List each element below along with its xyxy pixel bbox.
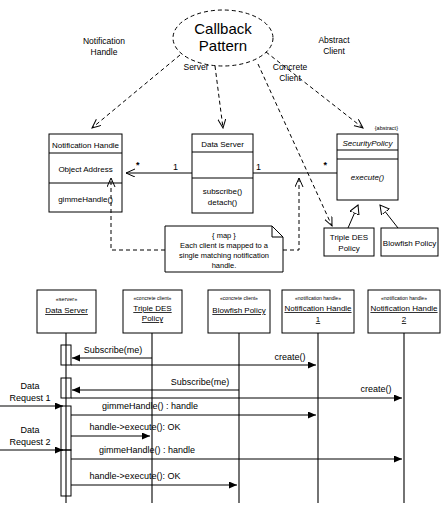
message-label-3: Subscribe(me): [171, 377, 230, 387]
multiplicity-star-right: *: [323, 160, 327, 170]
lifeline-name-notification-handle-1: Notification Handle: [284, 304, 352, 313]
security-policy-name: SecurityPolicy: [342, 139, 393, 148]
message-label-1: Subscribe(me): [84, 345, 143, 355]
lifeline-index-notification-handle-2: 2: [402, 315, 407, 324]
external-actor-2-line1: Data: [20, 425, 39, 435]
external-actor-1-line2: Request 1: [9, 393, 50, 403]
lifeline-name-triple-des-line1: Triple DES: [133, 304, 171, 313]
external-actor-2-line2: Request 2: [9, 437, 50, 447]
note-line-2: single matching notification: [179, 251, 269, 260]
lifeline-stereotype-blowfish: «concrete client»: [220, 295, 258, 301]
pattern-title-line2: Pattern: [199, 37, 247, 54]
lifeline-name-data-server: Data Server: [45, 306, 88, 315]
lifeline-stereotype-data-server: «server»: [56, 296, 77, 302]
triple-des-label-line1: Triple DES: [330, 233, 368, 242]
security-policy-stereotype: {abstract}: [375, 125, 398, 131]
multiplicity-one-right: 1: [256, 162, 261, 172]
role-label-abstract-client-line2: Client: [323, 46, 345, 56]
lifeline-stereotype-notification-handle-1: «notification handle»: [295, 295, 341, 301]
role-label-abstract-client-line1: Abstract: [318, 35, 350, 45]
note-line-3: handle.: [212, 261, 237, 270]
note-line-1: Each client is mapped to a: [180, 241, 269, 250]
notification-handle-attribute: Object Address: [58, 165, 112, 174]
lifeline-name-triple-des-line2: Policy: [142, 314, 163, 323]
role-label-notification-handle-line2: Handle: [91, 47, 118, 57]
data-server-operation-2: detach(): [208, 198, 238, 207]
data-server-name: Data Server: [201, 140, 244, 149]
uml-canvas: Callback Pattern Notification Handle Ser…: [0, 0, 448, 512]
role-label-concrete-client-line2: Client: [279, 73, 301, 83]
external-actor-1-line1: Data: [20, 381, 39, 391]
triple-des-label-line2: Policy: [338, 244, 359, 253]
notification-handle-name: Notification Handle: [52, 141, 120, 150]
uml-diagram-page: Callback Pattern Notification Handle Ser…: [0, 0, 448, 512]
lifeline-stereotype-triple-des: «concrete client»: [134, 295, 172, 301]
lifeline-name-notification-handle-2: Notification Handle: [370, 304, 438, 313]
role-label-notification-handle-line1: Notification: [83, 36, 125, 46]
class-box-notification-handle[interactable]: Notification Handle Object Address gimme…: [49, 134, 122, 212]
multiplicity-star-left: *: [136, 160, 140, 170]
data-server-operation-1: subscribe(): [203, 187, 243, 196]
message-label-6: handle->execute(): OK: [90, 422, 181, 432]
note-header: { map }: [212, 231, 236, 240]
lifeline-index-notification-handle-1: 1: [316, 315, 321, 324]
multiplicity-one-left: 1: [173, 162, 178, 172]
message-label-5: gimmeHandle() : handle: [102, 401, 198, 411]
blowfish-label-line1: Blowfish Policy: [383, 239, 436, 248]
role-label-server-line1: Server: [183, 62, 208, 72]
message-label-7: gimmeHandle() : handle: [99, 445, 195, 455]
message-label-4: create(): [360, 384, 391, 394]
security-policy-operation: execute(): [351, 173, 385, 182]
notification-handle-operation: gimmeHandle(): [58, 195, 113, 204]
lifeline-stereotype-notification-handle-2: «notification handle»: [381, 295, 427, 301]
pattern-title-line1: Callback: [194, 20, 252, 37]
message-label-8: handle->execute(): OK: [90, 471, 181, 481]
message-label-2: create(): [274, 352, 305, 362]
lifeline-name-blowfish: Blowfish Policy: [212, 306, 265, 315]
